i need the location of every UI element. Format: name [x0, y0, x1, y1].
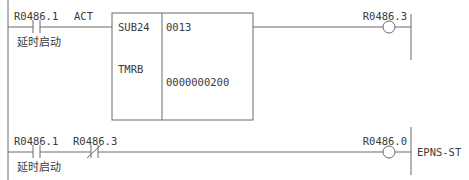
- function-subname: TMRB: [118, 63, 143, 75]
- function-param-2: 0000000200: [166, 76, 229, 88]
- contact-address: R0486.3: [73, 135, 117, 147]
- contact-address: R0486.1: [14, 10, 58, 22]
- coil-icon[interactable]: [383, 21, 395, 33]
- coil-icon[interactable]: [383, 146, 395, 158]
- act-label: ACT: [74, 10, 93, 22]
- coil-comment: EPNS-ST: [417, 146, 461, 158]
- ladder-diagram: R0486.1 ACT 延时启动 SUB24 TMRB 0013 0000000…: [0, 0, 469, 180]
- function-name: SUB24: [118, 21, 150, 33]
- contact-address: R0486.1: [14, 135, 58, 147]
- contact-comment: 延时启动: [17, 161, 61, 174]
- contact-comment: 延时启动: [17, 36, 61, 49]
- ladder-lines: [0, 0, 469, 180]
- coil-address: R0486.0: [340, 135, 407, 147]
- function-param-1: 0013: [166, 21, 191, 33]
- coil-address: R0486.3: [340, 10, 407, 22]
- rung-1: [8, 13, 411, 120]
